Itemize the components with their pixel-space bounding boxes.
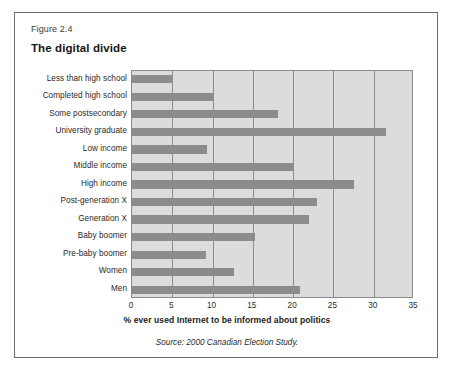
x-tick-label: 10 — [207, 301, 216, 310]
figure-card: Figure 2.4 The digital divide Less than … — [14, 12, 438, 358]
bar — [132, 233, 255, 241]
bar — [132, 145, 207, 153]
x-tick-label: 30 — [368, 301, 377, 310]
category-label: Women — [15, 266, 127, 275]
category-axis-labels: Less than high schoolCompleted high scho… — [15, 70, 127, 298]
x-tick-label: 0 — [129, 301, 134, 310]
bar-row — [132, 141, 412, 159]
x-tick-label: 25 — [328, 301, 337, 310]
x-axis-title: % ever used Internet to be informed abou… — [15, 315, 439, 325]
category-label: Generation X — [15, 214, 127, 223]
bar — [132, 163, 293, 171]
category-label: Some postsecondary — [15, 109, 127, 118]
category-label: Completed high school — [15, 91, 127, 100]
bar-row — [132, 194, 412, 212]
bar — [132, 215, 309, 223]
bar — [132, 75, 172, 83]
bar — [132, 128, 386, 136]
x-axis-tick-labels: 05101520253035 — [131, 301, 413, 313]
bar-row — [132, 211, 412, 229]
bar — [132, 268, 234, 276]
bar-row — [132, 264, 412, 282]
bar-row — [132, 71, 412, 89]
source-note: Source: 2000 Canadian Election Study. — [15, 338, 439, 347]
bar-row — [132, 229, 412, 247]
bar-row — [132, 89, 412, 107]
bar — [132, 180, 354, 188]
bar — [132, 251, 206, 259]
category-label: Less than high school — [15, 74, 127, 83]
bar-row — [132, 281, 412, 299]
figure-number: Figure 2.4 — [31, 24, 73, 34]
bar-row — [132, 106, 412, 124]
bar — [132, 110, 278, 118]
figure-title: The digital divide — [31, 42, 127, 54]
x-tick-label: 35 — [408, 301, 417, 310]
bar-row — [132, 246, 412, 264]
bar — [132, 93, 213, 101]
category-label: Men — [15, 284, 127, 293]
bar-row — [132, 176, 412, 194]
bar-row — [132, 159, 412, 177]
bar — [132, 198, 317, 206]
category-label: Baby boomer — [15, 231, 127, 240]
x-tick-label: 20 — [288, 301, 297, 310]
bar-series — [132, 71, 412, 297]
category-label: University graduate — [15, 126, 127, 135]
category-label: Low income — [15, 144, 127, 153]
category-label: Pre-baby boomer — [15, 249, 127, 258]
x-tick-label: 15 — [247, 301, 256, 310]
bar-row — [132, 124, 412, 142]
x-tick-label: 5 — [169, 301, 174, 310]
category-label: Post-generation X — [15, 196, 127, 205]
category-label: Middle income — [15, 161, 127, 170]
plot-area — [131, 70, 413, 298]
category-label: High income — [15, 179, 127, 188]
bar — [132, 286, 300, 294]
